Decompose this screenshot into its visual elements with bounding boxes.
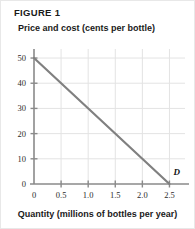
y-tick-label: 30 xyxy=(18,103,27,113)
x-tick-label: 0 xyxy=(32,190,36,200)
x-axis-title: Quantity (millions of bottles per year) xyxy=(1,209,194,219)
y-tick-label: 10 xyxy=(18,154,27,164)
y-tick-label: 0 xyxy=(22,179,26,189)
tick-labels-group: 0102030405000.51.01.52.02.5 xyxy=(18,53,175,200)
x-tick-label: 0.5 xyxy=(56,190,67,200)
x-tick-label: 2.0 xyxy=(137,190,148,200)
chart-plot-area: 0102030405000.51.01.52.02.5 D xyxy=(1,1,195,229)
axes-group xyxy=(30,49,189,184)
demand-curve-line xyxy=(34,58,169,184)
x-tick-label: 2.5 xyxy=(164,190,175,200)
demand-curve-group xyxy=(34,58,169,184)
x-tick-label: 1.0 xyxy=(83,190,94,200)
tick-marks-group xyxy=(31,58,170,187)
gridlines-group xyxy=(34,49,185,184)
y-tick-label: 20 xyxy=(18,129,27,139)
figure-container: FIGURE 1 Price and cost (cents per bottl… xyxy=(0,0,195,229)
x-tick-label: 1.5 xyxy=(110,190,121,200)
curve-annotations-group: D xyxy=(172,167,180,177)
demand-curve-label: D xyxy=(172,167,180,177)
y-tick-label: 50 xyxy=(18,53,27,63)
y-tick-label: 40 xyxy=(18,78,27,88)
